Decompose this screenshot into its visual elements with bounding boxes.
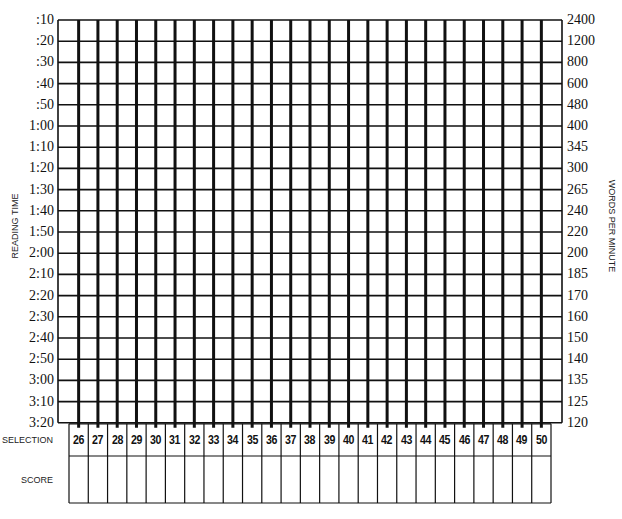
selection-number-cell: 42 bbox=[379, 424, 395, 456]
words-per-minute-tick: 140 bbox=[567, 352, 588, 366]
reading-time-tick: :40 bbox=[0, 77, 54, 91]
words-per-minute-tick: 345 bbox=[567, 140, 588, 154]
score-cell[interactable] bbox=[493, 456, 512, 503]
reading-time-tick: 1:20 bbox=[0, 161, 54, 175]
score-cell[interactable] bbox=[435, 456, 454, 503]
score-cell[interactable] bbox=[474, 456, 493, 503]
words-per-minute-tick: 1200 bbox=[567, 34, 595, 48]
selection-number-cell: 27 bbox=[90, 424, 106, 456]
selection-number-cell: 36 bbox=[263, 424, 279, 456]
selection-number-cell: 34 bbox=[225, 424, 241, 456]
words-per-minute-tick: 120 bbox=[567, 416, 588, 430]
score-cell[interactable] bbox=[146, 456, 165, 503]
score-cell[interactable] bbox=[300, 456, 319, 503]
reading-time-tick: :20 bbox=[0, 34, 54, 48]
score-cell[interactable] bbox=[320, 456, 339, 503]
selection-number-cell: 40 bbox=[340, 424, 356, 456]
words-per-minute-tick: 170 bbox=[567, 289, 588, 303]
score-cell[interactable] bbox=[223, 456, 242, 503]
score-cell[interactable] bbox=[455, 456, 474, 503]
words-per-minute-tick: 2400 bbox=[567, 13, 595, 27]
reading-time-tick: :30 bbox=[0, 55, 54, 69]
words-per-minute-tick: 265 bbox=[567, 183, 588, 197]
words-per-minute-tick: 800 bbox=[567, 55, 588, 69]
selection-number-cell: 33 bbox=[205, 424, 221, 456]
selection-number-cell: 30 bbox=[148, 424, 164, 456]
words-per-minute-tick: 185 bbox=[567, 267, 588, 281]
selection-number-cell: 32 bbox=[186, 424, 202, 456]
reading-time-tick: 2:20 bbox=[0, 289, 54, 303]
score-cell[interactable] bbox=[204, 456, 223, 503]
reading-time-tick: 2:10 bbox=[0, 267, 54, 281]
score-cell[interactable] bbox=[262, 456, 281, 503]
score-cell[interactable] bbox=[165, 456, 184, 503]
reading-time-tick: 2:40 bbox=[0, 331, 54, 345]
score-cell[interactable] bbox=[69, 456, 88, 503]
reading-time-tick: :50 bbox=[0, 98, 54, 112]
selection-number-cell: 28 bbox=[109, 424, 125, 456]
selection-number-cell: 50 bbox=[533, 424, 549, 456]
words-per-minute-tick: 400 bbox=[567, 119, 588, 133]
selection-number-cell: 37 bbox=[283, 424, 299, 456]
score-cell[interactable] bbox=[281, 456, 300, 503]
selection-number-cell: 29 bbox=[128, 424, 144, 456]
words-per-minute-tick: 480 bbox=[567, 98, 588, 112]
words-per-minute-axis-label: WORDS PER MINUTE bbox=[607, 180, 617, 273]
score-cell[interactable] bbox=[88, 456, 107, 503]
selection-number-cell: 26 bbox=[70, 424, 86, 456]
reading-time-tick: 3:00 bbox=[0, 373, 54, 387]
score-cell[interactable] bbox=[532, 456, 551, 503]
words-per-minute-tick: 240 bbox=[567, 204, 588, 218]
selection-number-cell: 39 bbox=[321, 424, 337, 456]
selection-number-cell: 46 bbox=[456, 424, 472, 456]
reading-time-tick: 2:30 bbox=[0, 310, 54, 324]
selection-number-cell: 38 bbox=[302, 424, 318, 456]
reading-time-tick: 1:00 bbox=[0, 119, 54, 133]
words-per-minute-tick: 220 bbox=[567, 225, 588, 239]
score-cell[interactable] bbox=[127, 456, 146, 503]
score-cell[interactable] bbox=[339, 456, 358, 503]
score-cell[interactable] bbox=[185, 456, 204, 503]
reading-time-tick: 1:40 bbox=[0, 204, 54, 218]
score-cell[interactable] bbox=[358, 456, 377, 503]
words-per-minute-tick: 125 bbox=[567, 395, 588, 409]
reading-time-tick: 1:10 bbox=[0, 140, 54, 154]
score-cell[interactable] bbox=[108, 456, 127, 503]
selection-number-cell: 47 bbox=[475, 424, 491, 456]
selection-number-cell: 41 bbox=[360, 424, 376, 456]
selection-number-cell: 48 bbox=[495, 424, 511, 456]
selection-number-cell: 45 bbox=[437, 424, 453, 456]
score-row-label: SCORE bbox=[21, 475, 53, 485]
words-per-minute-tick: 600 bbox=[567, 77, 588, 91]
reading-time-axis-label: READING TIME bbox=[10, 194, 20, 259]
selection-number-cell: 49 bbox=[514, 424, 530, 456]
reading-time-tick: 1:50 bbox=[0, 225, 54, 239]
selection-number-cell: 31 bbox=[167, 424, 183, 456]
words-per-minute-tick: 135 bbox=[567, 373, 588, 387]
score-cell[interactable] bbox=[377, 456, 396, 503]
selection-row-label: SELECTION bbox=[2, 435, 53, 445]
reading-time-tick: 3:20 bbox=[0, 416, 54, 430]
selection-number-cell: 44 bbox=[417, 424, 433, 456]
reading-time-tick: 3:10 bbox=[0, 395, 54, 409]
words-per-minute-tick: 150 bbox=[567, 331, 588, 345]
words-per-minute-tick: 160 bbox=[567, 310, 588, 324]
words-per-minute-tick: 300 bbox=[567, 161, 588, 175]
score-cell[interactable] bbox=[512, 456, 531, 503]
reading-time-tick: 1:30 bbox=[0, 183, 54, 197]
score-cell[interactable] bbox=[243, 456, 262, 503]
words-per-minute-tick: 200 bbox=[567, 246, 588, 260]
score-cell[interactable] bbox=[416, 456, 435, 503]
selection-number-cell: 35 bbox=[244, 424, 260, 456]
reading-time-tick: :10 bbox=[0, 13, 54, 27]
selection-number-cell: 43 bbox=[398, 424, 414, 456]
reading-time-tick: 2:00 bbox=[0, 246, 54, 260]
score-cell[interactable] bbox=[397, 456, 416, 503]
reading-time-tick: 2:50 bbox=[0, 352, 54, 366]
